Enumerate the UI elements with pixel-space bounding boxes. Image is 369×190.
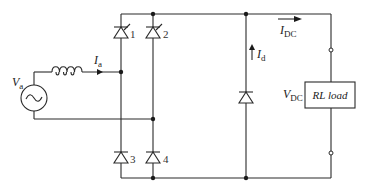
output-terminal-positive [329,48,333,52]
id-current-label: Id [256,47,266,63]
id-current-arrow [249,44,255,60]
diode-3-icon [114,152,128,163]
ac-source-icon [21,85,47,111]
diode-3-label: 3 [130,153,136,165]
junction-dots [119,12,248,180]
ia-current-arrow [97,69,103,75]
vdc-label: VDC [283,87,303,103]
freewheeling-diode-icon [239,92,253,103]
inductor-icon [52,67,82,75]
diode-4-icon [146,152,160,163]
thyristor-1-icon [114,24,130,38]
idc-current-label: IDC [279,23,297,39]
rl-load-label: RL load [312,89,348,101]
idc-current-arrow [278,16,302,22]
thyristor-2-icon [146,24,162,38]
source-voltage-label: Va [12,75,23,91]
thyristor-1-label: 1 [130,28,136,40]
circuit-diagram: Va Ia 1 2 3 4 [0,0,369,190]
output-terminal-negative [329,151,333,155]
diode-4-label: 4 [163,153,169,165]
thyristor-2-label: 2 [163,28,169,40]
ia-current-label: Ia [93,53,102,69]
